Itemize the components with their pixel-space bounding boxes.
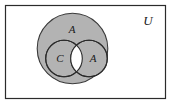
venn-diagram-canvas: A C A U [0,0,172,105]
universal-set-label: U [143,13,154,28]
inner-set-label-c: C [56,52,64,64]
outer-set-label: A [68,23,76,35]
venn-diagram-figure: A C A U [0,0,172,105]
inner-set-label-a: A [89,52,97,64]
